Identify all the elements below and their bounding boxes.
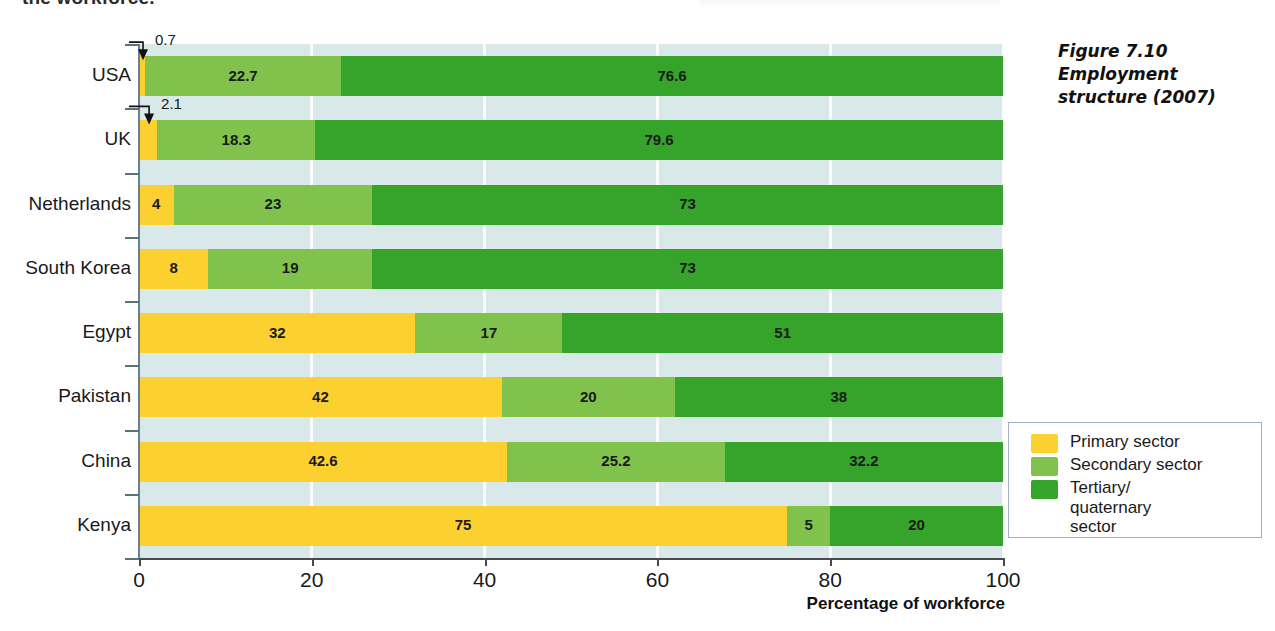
bar-segment[interactable]: 79.6 bbox=[315, 120, 1003, 160]
bar-segment[interactable]: 76.6 bbox=[341, 56, 1003, 96]
bar-row[interactable]: 75520 bbox=[139, 506, 1003, 546]
x-axis-tick-label: 20 bbox=[300, 568, 323, 592]
bar-segment[interactable]: 32.2 bbox=[725, 442, 1003, 482]
y-axis-tick bbox=[125, 365, 139, 367]
x-axis-tick-label: 100 bbox=[985, 568, 1020, 592]
legend-label: Secondary sector bbox=[1070, 455, 1202, 475]
bar-segment[interactable]: 19 bbox=[208, 249, 372, 289]
y-axis-label-china: China bbox=[1, 450, 131, 472]
bar-value-label: 42.6 bbox=[308, 452, 337, 469]
legend-color-swatch bbox=[1031, 434, 1058, 453]
bar-value-label: 20 bbox=[908, 516, 925, 533]
bar-segment[interactable]: 18.3 bbox=[157, 120, 315, 160]
caption-line-1: Figure 7.10 bbox=[1058, 40, 1273, 63]
y-axis-tick bbox=[125, 237, 139, 239]
bar-value-label: 32.2 bbox=[849, 452, 878, 469]
y-axis-tick bbox=[125, 301, 139, 303]
caption-line-2: Employment bbox=[1058, 63, 1273, 86]
y-axis-label-south-korea: South Korea bbox=[1, 257, 131, 279]
x-axis-tick bbox=[485, 558, 487, 566]
bar-segment[interactable]: 8 bbox=[139, 249, 208, 289]
bar-segment[interactable]: 22.7 bbox=[145, 56, 341, 96]
bar-segment[interactable]: 25.2 bbox=[507, 442, 725, 482]
x-axis-tick-label: 80 bbox=[819, 568, 842, 592]
bar-value-label: 4 bbox=[152, 195, 160, 212]
bar-segment[interactable]: 51 bbox=[562, 313, 1003, 353]
bar-segment[interactable]: 38 bbox=[675, 377, 1003, 417]
legend-item[interactable]: Primary sector bbox=[1031, 432, 1261, 453]
bar-value-label: 18.3 bbox=[222, 131, 251, 148]
legend-color-swatch bbox=[1031, 457, 1058, 476]
x-axis-tick-label: 0 bbox=[133, 568, 145, 592]
bar-value-label: 79.6 bbox=[645, 131, 674, 148]
y-axis-tick bbox=[125, 430, 139, 432]
y-axis-tick bbox=[125, 173, 139, 175]
bar-value-label: 8 bbox=[169, 259, 177, 276]
bar-value-label: 20 bbox=[580, 388, 597, 405]
bar-value-label: 25.2 bbox=[601, 452, 630, 469]
bar-value-label: 23 bbox=[265, 195, 282, 212]
bar-segment[interactable]: 73 bbox=[372, 185, 1003, 225]
y-axis-tick bbox=[125, 494, 139, 496]
bar-row[interactable]: 18.379.6 bbox=[139, 120, 1003, 160]
legend-item[interactable]: Tertiary/quaternarysector bbox=[1031, 478, 1261, 537]
bar-row[interactable]: 81973 bbox=[139, 249, 1003, 289]
legend-label: Tertiary/quaternarysector bbox=[1070, 478, 1151, 537]
y-axis-tick bbox=[125, 108, 139, 110]
y-axis-label-kenya: Kenya bbox=[1, 514, 131, 536]
x-axis-line bbox=[139, 558, 1005, 560]
x-axis-tick bbox=[830, 558, 832, 566]
bar-segment[interactable]: 23 bbox=[174, 185, 373, 225]
bar-segment[interactable]: 42.6 bbox=[139, 442, 507, 482]
bar-segment[interactable]: 4 bbox=[139, 185, 174, 225]
legend-items: Primary sectorSecondary sectorTertiary/q… bbox=[1009, 423, 1261, 537]
bar-value-label: 42 bbox=[312, 388, 329, 405]
legend-color-swatch bbox=[1031, 480, 1058, 499]
bar-row[interactable]: 321751 bbox=[139, 313, 1003, 353]
caption-line-3: structure (2007) bbox=[1058, 86, 1273, 109]
bar-segment[interactable]: 75 bbox=[139, 506, 787, 546]
x-axis-tick bbox=[312, 558, 314, 566]
bar-row[interactable]: 42.625.232.2 bbox=[139, 442, 1003, 482]
bar-segment[interactable]: 17 bbox=[415, 313, 562, 353]
figure-caption: Figure 7.10 Employment structure (2007) bbox=[1058, 40, 1273, 109]
bar-value-label: 38 bbox=[830, 388, 847, 405]
bar-segment[interactable]: 73 bbox=[372, 249, 1003, 289]
bar-row[interactable]: 42373 bbox=[139, 185, 1003, 225]
bar-value-label: 73 bbox=[679, 259, 696, 276]
bar-value-label: 5 bbox=[804, 516, 812, 533]
bar-row[interactable]: 22.776.6 bbox=[139, 56, 1003, 96]
bar-value-label: 51 bbox=[774, 324, 791, 341]
x-axis-tick-label: 40 bbox=[473, 568, 496, 592]
y-axis-label-usa: USA bbox=[1, 64, 131, 86]
bar-value-label: 17 bbox=[481, 324, 498, 341]
bar-value-label: 73 bbox=[679, 195, 696, 212]
y-axis-tick bbox=[125, 44, 139, 46]
y-axis-category-labels: USAUKNetherlandsSouth KoreaEgyptPakistan… bbox=[0, 0, 131, 631]
x-axis-tick bbox=[657, 558, 659, 566]
bar-value-label: 22.7 bbox=[229, 67, 258, 84]
bar-value-label: 32 bbox=[269, 324, 286, 341]
x-axis-title: Percentage of workforce bbox=[0, 594, 1005, 614]
x-axis-tick bbox=[1003, 558, 1005, 566]
x-axis-tick-label: 60 bbox=[646, 568, 669, 592]
plot-area: 22.776.618.379.6423738197332175142203842… bbox=[139, 44, 1003, 558]
bar-row[interactable]: 422038 bbox=[139, 377, 1003, 417]
bar-segment[interactable]: 32 bbox=[139, 313, 415, 353]
bar-segment[interactable]: 42 bbox=[139, 377, 502, 417]
y-axis-label-pakistan: Pakistan bbox=[1, 385, 131, 407]
legend-label: Primary sector bbox=[1070, 432, 1180, 452]
bar-segment[interactable] bbox=[139, 120, 157, 160]
chart-legend: Primary sectorSecondary sectorTertiary/q… bbox=[1008, 422, 1262, 538]
callout-value-label: 0.7 bbox=[155, 31, 176, 48]
bar-value-label: 19 bbox=[282, 259, 299, 276]
y-axis-tick bbox=[125, 558, 139, 560]
legend-item[interactable]: Secondary sector bbox=[1031, 455, 1261, 476]
y-axis-label-netherlands: Netherlands bbox=[1, 193, 131, 215]
x-axis-tick bbox=[139, 558, 141, 566]
bar-segment[interactable]: 20 bbox=[502, 377, 675, 417]
y-axis-label-egypt: Egypt bbox=[1, 321, 131, 343]
bar-segment[interactable]: 20 bbox=[830, 506, 1003, 546]
bar-segment[interactable]: 5 bbox=[787, 506, 830, 546]
bar-value-label: 75 bbox=[455, 516, 472, 533]
